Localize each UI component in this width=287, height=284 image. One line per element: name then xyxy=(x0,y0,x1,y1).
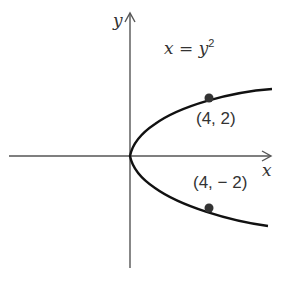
point-lower-label: (4, − 2) xyxy=(193,174,247,191)
y-axis-label: y xyxy=(113,12,123,29)
point-4-neg2 xyxy=(205,204,214,213)
point-upper-label: (4, 2) xyxy=(196,110,236,127)
point-4-2 xyxy=(205,94,214,103)
parabola-diagram xyxy=(0,0,287,284)
equation-label: x = y2 xyxy=(164,38,214,57)
x-axis-label: x xyxy=(262,162,272,179)
equation-text: x = y xyxy=(164,38,208,58)
equation-exponent: 2 xyxy=(208,37,214,49)
